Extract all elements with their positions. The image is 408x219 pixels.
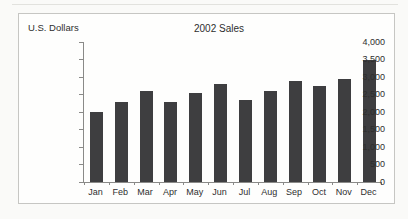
x-category-label: Apr <box>158 187 183 199</box>
y-axis-tick <box>79 147 83 148</box>
chart-panel: U.S. Dollars 2002 Sales 05001,0001,5002,… <box>18 13 395 204</box>
bar-aug <box>264 91 277 182</box>
x-axis-tick <box>258 182 259 185</box>
y-axis-tick <box>79 77 83 78</box>
x-axis-tick <box>233 182 234 185</box>
y-tick-label: 500 <box>345 159 385 169</box>
x-axis-tick <box>283 182 284 185</box>
chart-title: 2002 Sales <box>129 23 309 34</box>
bar-apr <box>164 102 177 183</box>
y-tick-label: 4,000 <box>345 37 385 47</box>
bar-may <box>189 93 202 182</box>
scan-artifact-line <box>12 4 398 5</box>
x-category-label: May <box>182 187 207 199</box>
x-category-label: Nov <box>331 187 356 199</box>
y-tick-label: 2,000 <box>345 107 385 117</box>
x-category-label: Sep <box>282 187 307 199</box>
y-axis-tick <box>79 59 83 60</box>
y-axis-tick <box>79 164 83 165</box>
x-axis-tick <box>208 182 209 185</box>
y-tick-label: 3,500 <box>345 54 385 64</box>
y-tick-label: 3,000 <box>345 72 385 82</box>
y-tick-label: 1,500 <box>345 124 385 134</box>
bar-mar <box>140 91 153 182</box>
x-axis-tick <box>109 182 110 185</box>
x-category-label: Dec <box>356 187 381 199</box>
y-axis-tick <box>79 94 83 95</box>
x-axis-tick <box>84 182 85 185</box>
x-category-label: Oct <box>307 187 332 199</box>
y-tick-label: 0 <box>345 177 385 187</box>
y-axis-tick <box>79 182 83 183</box>
x-category-label: Jul <box>232 187 257 199</box>
x-axis-tick <box>183 182 184 185</box>
x-axis-tick <box>134 182 135 185</box>
chart-figure: U.S. Dollars 2002 Sales 05001,0001,5002,… <box>0 0 408 219</box>
y-tick-label: 2,500 <box>345 89 385 99</box>
y-axis-tick <box>79 129 83 130</box>
x-category-label: Aug <box>257 187 282 199</box>
x-axis-tick <box>332 182 333 185</box>
bar-jul <box>239 100 252 182</box>
x-category-label: Jun <box>207 187 232 199</box>
bar-oct <box>313 86 326 182</box>
x-category-label: Jan <box>83 187 108 199</box>
x-axis-tick <box>159 182 160 185</box>
bar-jun <box>214 84 227 182</box>
bar-sep <box>289 81 302 183</box>
x-axis-tick <box>308 182 309 185</box>
x-category-label: Mar <box>133 187 158 199</box>
y-axis-unit-label: U.S. Dollars <box>28 22 79 33</box>
plot-area <box>83 42 382 183</box>
y-tick-label: 1,000 <box>345 142 385 152</box>
bar-jan <box>90 112 103 182</box>
x-category-label: Feb <box>108 187 133 199</box>
y-axis-tick <box>79 42 83 43</box>
bar-feb <box>115 102 128 183</box>
y-axis-tick <box>79 112 83 113</box>
